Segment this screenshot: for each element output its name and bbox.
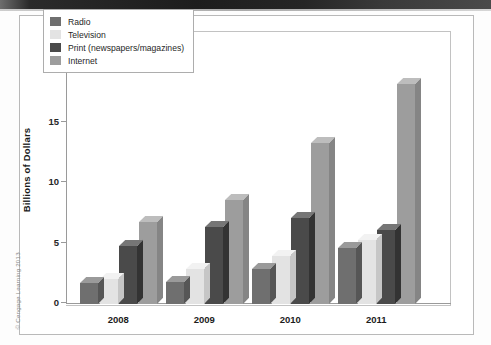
bar-radio-2010 — [252, 269, 270, 304]
y-tick-label: 10 — [48, 176, 59, 187]
x-category-label-2011: 2011 — [366, 314, 387, 325]
bar-side-face — [290, 249, 296, 304]
legend-label: Print (newspapers/magazines) — [68, 43, 184, 53]
bar-side-face — [223, 220, 229, 304]
legend-label: Internet — [68, 56, 97, 66]
chart-legend: RadioTelevisionPrint (newspapers/magazin… — [43, 9, 194, 73]
legend-label: Radio — [68, 17, 90, 27]
y-tick-label: 15 — [48, 115, 59, 126]
y-tick-mark — [61, 302, 66, 303]
bar-front-face — [338, 248, 356, 304]
bar-front-face — [166, 282, 184, 304]
legend-item-internet: Internet — [50, 54, 184, 67]
y-tick-label: 5 — [54, 236, 59, 247]
bar-side-face — [309, 212, 315, 304]
page-background: © Cengage Learning 2013 05101520 2008200… — [0, 0, 491, 345]
scan-artifact-bar — [0, 0, 491, 9]
legend-item-radio: Radio — [50, 15, 184, 28]
bar-side-face — [415, 78, 421, 304]
bar-front-face — [80, 283, 98, 304]
y-tick-mark — [61, 181, 66, 182]
bar-side-face — [137, 240, 143, 304]
bar-radio-2008 — [80, 283, 98, 304]
bar-radio-2011 — [338, 248, 356, 304]
y-tick-mark — [61, 242, 66, 243]
legend-label: Television — [68, 30, 106, 40]
bar-side-face — [204, 263, 210, 304]
bar-side-face — [356, 242, 362, 304]
y-tick-mark — [61, 121, 66, 122]
bar-side-face — [243, 194, 249, 304]
bar-front-face — [252, 269, 270, 304]
x-category-label-2009: 2009 — [194, 314, 215, 325]
bar-radio-2009 — [166, 282, 184, 304]
legend-item-television: Television — [50, 28, 184, 41]
legend-swatch-icon — [50, 30, 61, 39]
legend-swatch-icon — [50, 56, 61, 65]
y-tick-label: 0 — [54, 297, 59, 308]
copyright-notice: © Cengage Learning 2013 — [14, 244, 21, 330]
bar-side-face — [395, 224, 401, 304]
x-category-label-2010: 2010 — [280, 314, 301, 325]
legend-swatch-icon — [50, 43, 61, 52]
bar-side-face — [157, 216, 163, 304]
legend-swatch-icon — [50, 17, 61, 26]
bar-side-face — [329, 137, 335, 304]
x-category-label-2008: 2008 — [108, 314, 129, 325]
bar-side-face — [376, 234, 382, 304]
legend-item-print: Print (newspapers/magazines) — [50, 41, 184, 54]
bar-side-face — [270, 263, 276, 304]
y-axis-title: Billions of Dollars — [21, 128, 32, 213]
